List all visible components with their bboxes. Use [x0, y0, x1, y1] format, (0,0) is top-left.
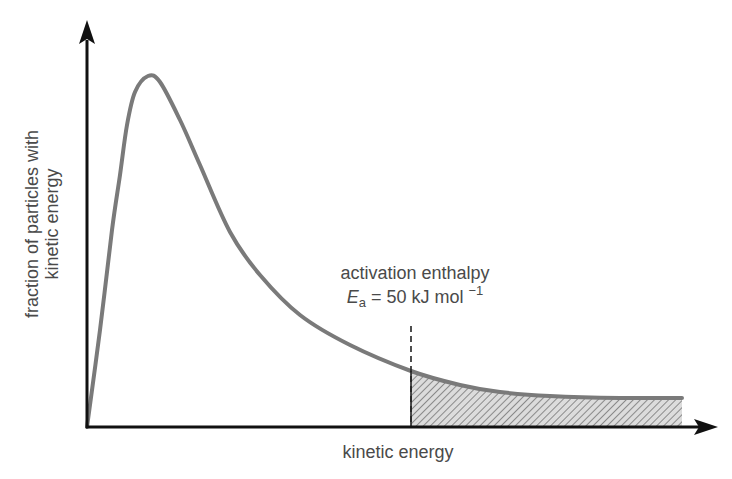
y-axis-label-line-1: fraction of particles with: [22, 130, 42, 318]
y-axis-label: fraction of particles with kinetic energ…: [22, 130, 62, 318]
annotation-superscript: −1: [468, 283, 483, 298]
y-axis-label-line-2: kinetic energy: [42, 168, 62, 279]
annotation-equals: = 50 kJ mol: [366, 287, 469, 307]
annotation-value: Ea = 50 kJ mol −1: [347, 283, 484, 310]
x-axis-label: kinetic energy: [342, 442, 453, 462]
distribution-curve: [87, 75, 682, 427]
maxwell-boltzmann-diagram: kinetic energy fraction of particles wit…: [0, 0, 732, 479]
annotation-title: activation enthalpy: [340, 263, 489, 283]
